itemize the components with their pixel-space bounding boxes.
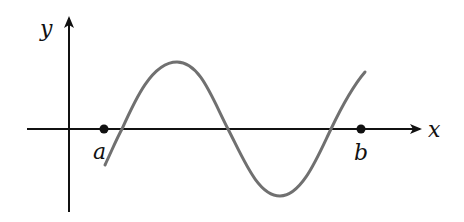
point-b-marker	[357, 125, 366, 134]
y-axis-label: y	[39, 16, 53, 41]
x-axis-label: x	[428, 117, 441, 142]
point-a-marker	[100, 125, 109, 134]
point-b-label: b	[354, 140, 368, 165]
point-a-label: a	[93, 139, 106, 164]
function-graph: a b x y	[0, 0, 464, 222]
